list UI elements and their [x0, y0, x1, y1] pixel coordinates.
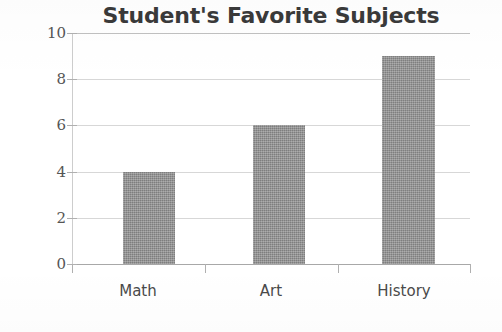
- category-label-art: Art: [211, 282, 331, 300]
- y-tick-label-2: 2: [26, 211, 66, 226]
- y-axis-labels: 10 8 6 4 2 0: [20, 0, 66, 332]
- y-tick-label-6: 6: [26, 118, 66, 133]
- y-tick-mark-8: [67, 79, 77, 80]
- y-tick-mark-10: [67, 33, 77, 34]
- category-tick-2: [338, 264, 339, 273]
- bar-math[interactable]: [123, 172, 175, 264]
- y-tick-label-8: 8: [26, 72, 66, 87]
- chart-title: Student's Favorite Subjects: [72, 2, 470, 30]
- category-tick-1: [205, 264, 206, 273]
- category-tick-0: [72, 264, 73, 273]
- y-tick-mark-2: [67, 218, 77, 219]
- y-axis-line: [72, 33, 73, 265]
- category-label-history: History: [344, 282, 464, 300]
- plot-area: [72, 33, 470, 264]
- category-label-math: Math: [78, 282, 198, 300]
- bar-chart: Student's Favorite Subjects 10 8 6 4 2 0…: [0, 0, 502, 332]
- bar-art[interactable]: [253, 125, 305, 264]
- category-tick-3: [470, 264, 471, 273]
- x-axis-line: [72, 264, 470, 265]
- y-tick-mark-4: [67, 172, 77, 173]
- y-tick-label-10: 10: [26, 26, 66, 41]
- y-tick-label-4: 4: [26, 165, 66, 180]
- gridline-10: [72, 33, 470, 34]
- y-tick-mark-6: [67, 125, 77, 126]
- y-tick-label-0: 0: [26, 257, 66, 272]
- bar-history[interactable]: [382, 56, 435, 264]
